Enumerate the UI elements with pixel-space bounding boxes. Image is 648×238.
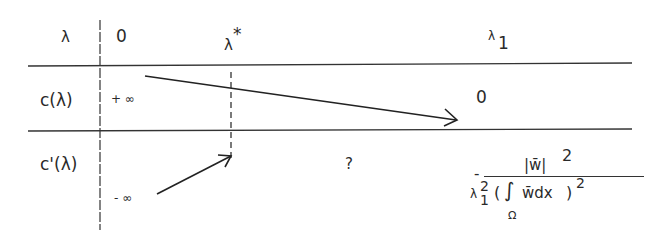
integral-body: w̄dx	[522, 186, 553, 201]
c-prime-end-value-fraction: - |w̄| 2 λ 2 1 ( ∫ Ω w̄dx ) 2	[470, 148, 648, 238]
c-end-value: 0	[476, 89, 487, 106]
row-divider	[28, 129, 632, 131]
c-prime-start-value: - ∞	[114, 192, 132, 204]
decreasing-arrowhead-icon	[444, 109, 457, 126]
open-paren: (	[494, 185, 500, 201]
header-label-lambda: λ	[61, 30, 70, 45]
lambda-1-subscript: 1	[498, 33, 509, 53]
header-value-zero: 0	[116, 28, 127, 45]
integral-domain: Ω	[508, 210, 516, 221]
lambda-star-superscript: *	[233, 24, 242, 44]
denominator-lambda-sup: 2	[480, 179, 489, 193]
c-prime-middle-value: ?	[345, 157, 353, 172]
fraction-numerator: |w̄|	[524, 158, 546, 173]
close-paren: )	[566, 185, 572, 201]
header-value-lambda-star: λ*	[224, 30, 241, 53]
row-label-c-prime: c'(λ)	[40, 156, 77, 173]
decreasing-arrow	[145, 76, 456, 120]
numerator-exponent: 2	[562, 148, 572, 164]
fraction-sign: -	[474, 167, 479, 182]
increasing-arrow	[157, 156, 231, 194]
header-divider	[28, 63, 632, 66]
c-start-value: + ∞	[111, 93, 135, 105]
integral-icon: ∫	[504, 180, 514, 200]
header-value-lambda-1: λ1	[488, 30, 509, 47]
denominator-lambda: λ	[470, 188, 477, 200]
denominator-lambda-sub: 1	[480, 193, 489, 207]
integral-exponent: 2	[576, 176, 585, 190]
row-label-c: c(λ)	[40, 92, 73, 109]
